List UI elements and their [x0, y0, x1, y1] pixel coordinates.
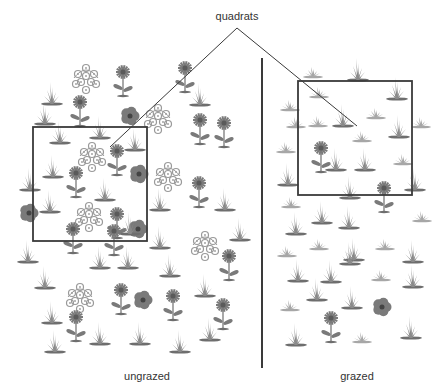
- grass-tuft-icon: [352, 332, 372, 343]
- grass-tuft-icon: [411, 117, 431, 128]
- grass-icon: [41, 301, 63, 325]
- grass-tuft-icon: [280, 100, 300, 111]
- flower-cluster-icon: [76, 203, 103, 232]
- grass-tuft-icon: [393, 154, 413, 165]
- grass-tuft-icon: [303, 67, 323, 78]
- ungrazed-plants: [17, 61, 251, 353]
- grass-icon: [347, 58, 369, 82]
- daisy-flower-icon: [311, 141, 332, 173]
- grass-icon: [339, 242, 361, 266]
- grass-tuft-icon: [281, 197, 301, 208]
- grass-icon: [149, 226, 171, 250]
- grass-tuft-icon: [308, 116, 328, 127]
- daisy-flower-icon: [63, 222, 84, 254]
- grass-icon: [41, 82, 63, 106]
- grass-icon: [159, 254, 181, 278]
- grass-tuft-icon: [280, 300, 300, 311]
- grass-icon: [341, 286, 363, 310]
- grass-icon: [169, 330, 191, 354]
- grass-icon: [339, 176, 361, 200]
- ungrazed-quadrat-frame: [33, 127, 147, 241]
- diagram-artwork: [0, 0, 447, 389]
- daisy-flower-icon: [107, 144, 128, 176]
- grass-icon: [189, 83, 211, 107]
- grass-icon: [320, 260, 342, 284]
- grass-icon: [42, 155, 64, 179]
- grass-icon: [94, 178, 116, 202]
- grass-icon: [311, 201, 333, 225]
- flower-cluster-icon: [145, 105, 172, 134]
- grass-icon: [129, 322, 151, 346]
- grass-icon: [214, 188, 236, 212]
- grazed-plants: [276, 58, 432, 347]
- hibiscus-flower-icon: [373, 298, 391, 317]
- grass-icon: [229, 218, 251, 242]
- hibiscus-flower-icon: [134, 291, 152, 310]
- grass-icon: [400, 316, 422, 340]
- quadrats-label: quadrats: [216, 10, 259, 22]
- grass-icon: [39, 190, 61, 214]
- grass-icon: [194, 274, 216, 298]
- grass-tuft-icon: [412, 211, 432, 222]
- ungrazed-label: ungrazed: [124, 370, 170, 382]
- grass-icon: [325, 148, 347, 172]
- flower-cluster-icon: [79, 143, 106, 172]
- grass-icon: [17, 240, 39, 264]
- daisy-flower-icon: [66, 166, 87, 198]
- daisy-flower-icon: [214, 116, 235, 148]
- grass-icon: [34, 266, 56, 290]
- daisy-flower-icon: [163, 289, 184, 321]
- grass-tuft-icon: [309, 239, 329, 250]
- grass-tuft-icon: [276, 142, 296, 153]
- daisy-flower-icon: [189, 176, 210, 208]
- grass-icon: [285, 212, 307, 236]
- daisy-flower-icon: [374, 181, 395, 213]
- quadrat-sampling-diagram: quadrats ungrazed grazed: [0, 0, 447, 389]
- pointer-line-to-grazed-quadrat: [237, 28, 357, 126]
- daisy-flower-icon: [213, 298, 234, 330]
- grass-icon: [343, 238, 365, 262]
- grass-icon: [404, 168, 426, 192]
- grass-icon: [89, 246, 111, 270]
- daisy-flower-icon: [111, 283, 132, 315]
- grass-icon: [277, 163, 299, 187]
- grass-tuft-icon: [375, 239, 395, 250]
- grass-tuft-icon: [352, 131, 372, 142]
- daisy-flower-icon: [219, 249, 240, 281]
- grass-icon: [402, 265, 424, 289]
- grass-tuft-icon: [277, 246, 297, 257]
- daisy-flower-icon: [66, 310, 87, 342]
- flower-cluster-icon: [192, 232, 219, 261]
- daisy-flower-icon: [190, 113, 211, 145]
- grass-icon: [287, 259, 309, 283]
- flower-cluster-icon: [73, 65, 100, 94]
- grass-icon: [332, 104, 354, 128]
- grass-icon: [19, 168, 41, 192]
- grass-icon: [44, 330, 66, 354]
- grass-icon: [388, 115, 410, 139]
- daisy-flower-icon: [321, 311, 342, 343]
- grazed-label: grazed: [340, 370, 374, 382]
- grass-icon: [338, 206, 360, 230]
- grass-icon: [89, 322, 111, 346]
- grass-icon: [285, 323, 307, 347]
- grass-icon: [354, 148, 376, 172]
- daisy-flower-icon: [113, 65, 134, 97]
- hibiscus-flower-icon: [130, 165, 148, 184]
- grass-icon: [402, 240, 424, 264]
- flower-cluster-icon: [155, 163, 182, 192]
- grass-icon: [124, 128, 146, 152]
- flower-cluster-icon: [67, 284, 94, 313]
- hibiscus-flower-icon: [20, 204, 38, 223]
- grass-tuft-icon: [286, 117, 306, 128]
- grass-tuft-icon: [366, 108, 386, 119]
- grass-tuft-icon: [371, 270, 391, 281]
- daisy-flower-icon: [70, 95, 91, 127]
